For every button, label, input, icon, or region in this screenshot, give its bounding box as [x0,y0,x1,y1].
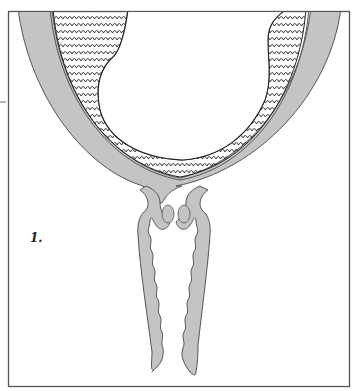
figure-label: 1. [30,231,43,245]
internal-os-left [162,205,174,223]
uterus-diagram [0,0,358,391]
internal-os-right [178,205,190,223]
